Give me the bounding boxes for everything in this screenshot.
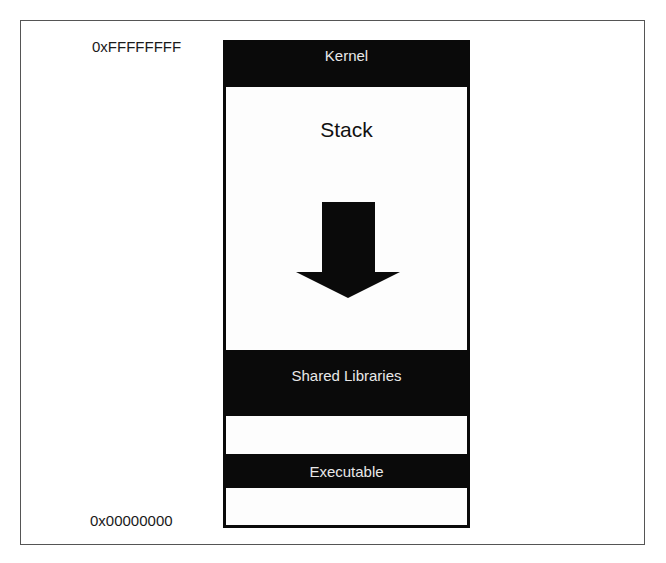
segment-shared-libraries-label: Shared Libraries <box>291 367 401 384</box>
address-top-label: 0xFFFFFFFF <box>92 38 181 55</box>
segment-stack: Stack <box>226 87 467 350</box>
address-bottom-label: 0x00000000 <box>90 512 173 529</box>
segment-executable-label: Executable <box>309 463 383 480</box>
segment-gap <box>226 416 467 454</box>
segment-kernel: Kernel <box>226 40 467 87</box>
segment-kernel-label: Kernel <box>325 47 368 64</box>
segment-bottom <box>226 488 467 525</box>
segment-shared-libraries: Shared Libraries <box>226 350 467 416</box>
segment-stack-label: Stack <box>226 118 467 142</box>
segment-executable: Executable <box>226 454 467 488</box>
arrow-down-icon <box>296 202 400 302</box>
memory-column: Kernel Stack Shared Libraries Executable <box>223 40 470 528</box>
